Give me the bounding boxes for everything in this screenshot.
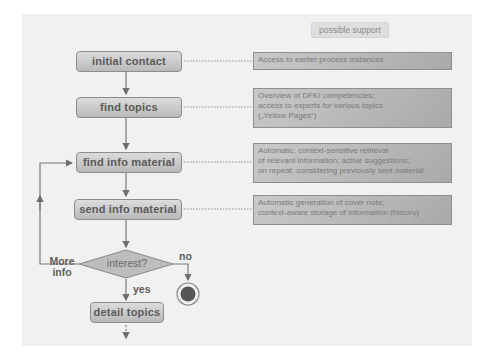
note-line: of relevant information; active suggesti… (258, 156, 447, 166)
note-line: Automatic generation of cover note; (258, 198, 447, 208)
note-line: access to experts for various topics (258, 101, 447, 111)
step-detail-topics: detail topics (90, 302, 164, 323)
note-line: Automatic, context-sensitive retrieval (258, 146, 447, 156)
decision-label: interest? (104, 257, 150, 269)
note-line: Overview of DFKI competencies; (258, 91, 447, 101)
step-initial-contact: initial contact (76, 51, 182, 72)
note-line: Access to earlier process instances (258, 55, 447, 65)
branch-more-info-label: More info (47, 256, 77, 278)
possible-support-header: possible support (311, 22, 389, 38)
support-note-find-topics: Overview of DFKI competencies; access to… (253, 88, 452, 128)
note-line: on repeat: considering previously sent m… (258, 166, 447, 176)
support-note-send-info-material: Automatic generation of cover note; cont… (253, 195, 452, 225)
support-note-initial-contact: Access to earlier process instances (253, 52, 452, 70)
branch-no-label: no (179, 250, 192, 262)
step-send-info-material: send info material (74, 199, 182, 220)
support-note-find-info-material: Automatic, context-sensitive retrieval o… (253, 143, 452, 183)
branch-yes-label: yes (133, 283, 151, 295)
step-find-topics: find topics (76, 97, 182, 118)
step-find-info-material: find info material (76, 152, 182, 173)
note-line: („Yellow Pages“) (258, 111, 447, 121)
note-line: context-aware storage of information (hi… (258, 208, 447, 218)
